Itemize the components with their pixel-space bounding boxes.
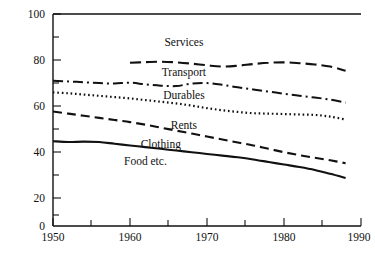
series-line-clothing — [53, 141, 346, 178]
x-tick-label-1970: 1970 — [196, 231, 219, 243]
y-tick-label-100: 100 — [28, 8, 46, 20]
series-label-clothing: Clothing — [141, 138, 182, 151]
y-tick-label-20: 20 — [34, 192, 46, 204]
x-tick-label-1960: 1960 — [119, 231, 142, 243]
line-chart: 100 80 60 40 20 0 1950 1960 1970 1980 19… — [0, 0, 375, 254]
series-label-food: Food etc. — [124, 155, 167, 167]
series-label-transport: Transport — [162, 66, 207, 79]
y-tick-label-60: 60 — [34, 100, 46, 112]
x-tick-label-1990: 1990 — [348, 231, 371, 243]
series-label-durables: Durables — [163, 89, 205, 101]
x-tick-label-1980: 1980 — [273, 231, 296, 243]
y-tick-label-40: 40 — [34, 146, 46, 158]
x-axis-ticks — [53, 218, 361, 226]
series-label-rents: Rents — [171, 119, 198, 131]
series-label-services: Services — [164, 36, 203, 48]
series-line-rents — [53, 112, 346, 164]
y-tick-label-80: 80 — [34, 54, 46, 66]
chart-svg: 100 80 60 40 20 0 1950 1960 1970 1980 19… — [0, 0, 375, 254]
x-tick-label-1950: 1950 — [42, 231, 65, 243]
series-lines — [53, 62, 346, 178]
y-axis-ticks — [53, 14, 61, 215]
